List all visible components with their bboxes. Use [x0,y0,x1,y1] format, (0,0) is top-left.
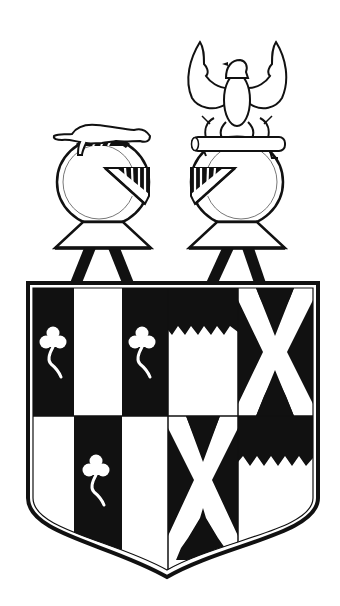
left-helm [55,138,151,248]
left-helm-stand [70,248,134,283]
saltire-upper [238,288,313,416]
coat-of-arms [0,0,340,606]
shield [28,283,318,577]
pale-1-top [33,288,74,416]
right-helm-stand [206,248,266,283]
chief-dancetty-lower [238,416,313,466]
eagle-crest-icon [188,42,286,138]
